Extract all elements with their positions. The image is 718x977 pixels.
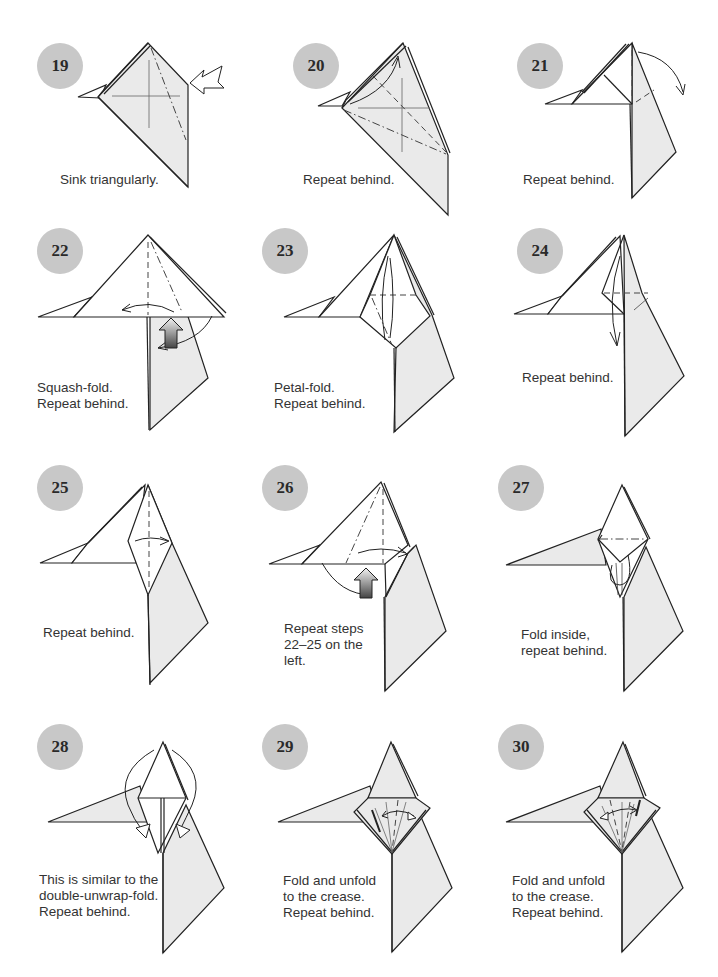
step-caption: Repeat steps 22–25 on the left. [284,621,364,669]
step-28: 28 This is similar to the double-unwrap-… [0,690,240,977]
step-29: 29 Fold and unfold to the crease. Repeat… [240,690,478,977]
fold-diagram [478,220,718,435]
step-caption: Fold inside, repeat behind. [521,627,607,659]
fold-diagram [0,435,240,690]
step-26: 26 Repeat steps 22–25 on the left. [240,435,478,690]
step-caption: Repeat behind. [303,172,395,188]
fold-diagram [478,690,718,977]
step-caption: Fold and unfold to the crease. Repeat be… [512,873,605,921]
step-caption: Fold and unfold to the crease. Repeat be… [283,873,376,921]
step-27: 27 Fold inside, repeat behind. [478,435,718,690]
step-caption: This is similar to the double-unwrap-fol… [39,872,158,920]
fold-diagram [0,690,240,977]
step-25: 25 Repeat behind. [0,435,240,690]
step-21: 21 Repeat behind. [478,0,718,220]
sink-arrow-icon [190,66,224,94]
step-30: 30 Fold and unfold to the crease. Repeat… [478,690,718,977]
step-19: 19 Sink triangularly. [0,0,240,220]
step-22: 22 Squash-fold. Repeat behind. [0,220,240,435]
step-caption: Squash-fold. Repeat behind. [37,380,129,412]
step-caption: Sink triangularly. [60,172,159,188]
step-caption: Petal-fold. Repeat behind. [274,380,366,412]
step-23: 23 Petal-fold. Repeat behind. [240,220,478,435]
step-caption: Repeat behind. [522,370,614,386]
step-caption: Repeat behind. [523,172,615,188]
step-24: 24 Repeat behind. [478,220,718,435]
step-caption: Repeat behind. [43,625,135,641]
fold-diagram [240,690,478,977]
step-20: 20 Repeat behind. [240,0,478,220]
